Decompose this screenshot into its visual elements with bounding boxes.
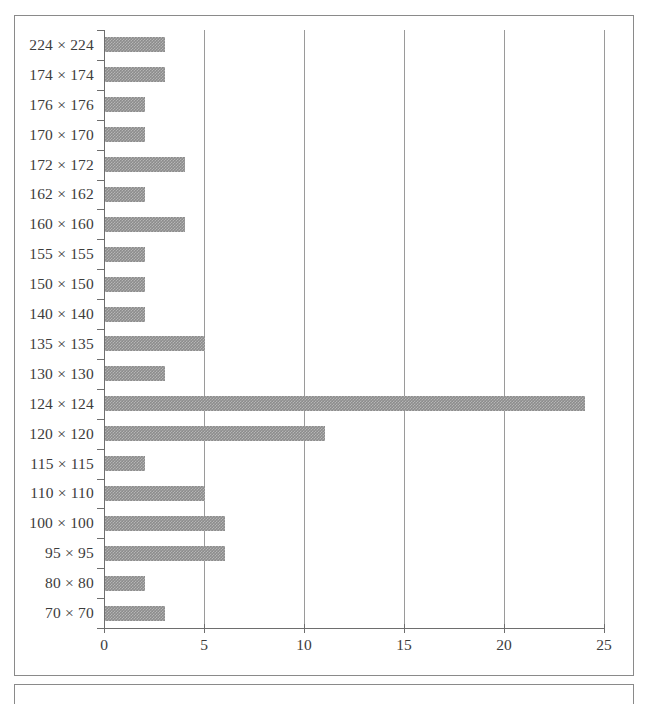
- bar: [105, 366, 165, 381]
- y-axis-label: 140 × 140: [22, 305, 94, 323]
- bar: [105, 336, 205, 351]
- y-axis-label: 120 × 120: [22, 425, 94, 443]
- bar-row: 176 × 176: [0, 90, 649, 120]
- bar: [105, 37, 165, 52]
- x-axis-label: 25: [574, 636, 634, 654]
- bar-row: 160 × 160: [0, 209, 649, 239]
- bar-row: 135 × 135: [0, 329, 649, 359]
- bar: [105, 97, 145, 112]
- x-axis-tick: [604, 624, 605, 633]
- y-axis-tick: [97, 180, 104, 181]
- y-axis-tick: [97, 508, 104, 509]
- bar-row: 155 × 155: [0, 239, 649, 269]
- bar: [105, 396, 585, 411]
- bar-row: 140 × 140: [0, 299, 649, 329]
- y-axis-tick: [97, 479, 104, 480]
- y-axis-label: 115 × 115: [22, 455, 94, 473]
- bar-row: 70 × 70: [0, 598, 649, 628]
- bar-row: 95 × 95: [0, 538, 649, 568]
- y-axis-tick: [97, 389, 104, 390]
- y-axis-tick: [97, 449, 104, 450]
- bar-row: 224 × 224: [0, 30, 649, 60]
- y-axis-label: 135 × 135: [22, 335, 94, 353]
- y-axis-label: 172 × 172: [22, 156, 94, 174]
- x-axis-tick: [504, 624, 505, 633]
- bar: [105, 247, 145, 262]
- y-axis-tick: [97, 598, 104, 599]
- bar-row: 110 × 110: [0, 479, 649, 509]
- bar-row: 150 × 150: [0, 269, 649, 299]
- y-axis-tick: [97, 538, 104, 539]
- bar: [105, 546, 225, 561]
- bar: [105, 157, 185, 172]
- bar-row: 130 × 130: [0, 359, 649, 389]
- bar: [105, 486, 205, 501]
- y-axis-label: 80 × 80: [22, 574, 94, 592]
- y-axis-label: 160 × 160: [22, 215, 94, 233]
- y-axis-tick: [97, 90, 104, 91]
- bar: [105, 456, 145, 471]
- bar: [105, 307, 145, 322]
- y-axis-label: 95 × 95: [22, 544, 94, 562]
- y-axis-label: 124 × 124: [22, 395, 94, 413]
- bar-row: 174 × 174: [0, 60, 649, 90]
- y-axis-tick: [97, 329, 104, 330]
- bar: [105, 187, 145, 202]
- y-axis-tick: [97, 239, 104, 240]
- y-axis-tick: [97, 60, 104, 61]
- x-axis-label: 0: [74, 636, 134, 654]
- y-axis-label: 70 × 70: [22, 604, 94, 622]
- x-axis-label: 20: [474, 636, 534, 654]
- bar-row: 172 × 172: [0, 150, 649, 180]
- y-axis-tick: [97, 299, 104, 300]
- bar-row: 170 × 170: [0, 120, 649, 150]
- y-axis-label: 224 × 224: [22, 36, 94, 54]
- y-axis-tick: [97, 269, 104, 270]
- bar-row: 80 × 80: [0, 568, 649, 598]
- x-axis-label: 15: [374, 636, 434, 654]
- bar-row: 162 × 162: [0, 180, 649, 210]
- x-axis-label: 10: [274, 636, 334, 654]
- y-axis-label: 130 × 130: [22, 365, 94, 383]
- y-axis-label: 170 × 170: [22, 126, 94, 144]
- bar-rows: 224 × 224174 × 174176 × 176170 × 170172 …: [0, 30, 649, 628]
- bar-row: 100 × 100: [0, 508, 649, 538]
- x-axis-tick: [304, 624, 305, 633]
- y-axis-label: 155 × 155: [22, 245, 94, 263]
- x-axis-line: [104, 628, 605, 629]
- bar-row: 115 × 115: [0, 449, 649, 479]
- y-axis-tick: [97, 150, 104, 151]
- x-axis-tick: [404, 624, 405, 633]
- y-axis-tick: [97, 120, 104, 121]
- bar: [105, 516, 225, 531]
- x-axis-tick: [204, 624, 205, 633]
- y-axis-tick: [97, 628, 104, 629]
- bar: [105, 576, 145, 591]
- y-axis-label: 100 × 100: [22, 514, 94, 532]
- y-axis-tick: [97, 359, 104, 360]
- x-axis-label: 5: [174, 636, 234, 654]
- y-axis-label: 150 × 150: [22, 275, 94, 293]
- bar: [105, 217, 185, 232]
- bar: [105, 127, 145, 142]
- bar-row: 124 × 124: [0, 389, 649, 419]
- bar: [105, 277, 145, 292]
- y-axis-label: 176 × 176: [22, 96, 94, 114]
- y-axis-label: 174 × 174: [22, 66, 94, 84]
- y-axis-tick: [97, 30, 104, 31]
- y-axis-label: 110 × 110: [22, 484, 94, 502]
- bar: [105, 606, 165, 621]
- x-axis-tick: [104, 624, 105, 633]
- bar: [105, 426, 325, 441]
- y-axis-tick: [97, 419, 104, 420]
- bar: [105, 67, 165, 82]
- y-axis-tick: [97, 568, 104, 569]
- caption-frame: [14, 684, 634, 704]
- y-axis-label: 162 × 162: [22, 185, 94, 203]
- bar-row: 120 × 120: [0, 419, 649, 449]
- y-axis-tick: [97, 209, 104, 210]
